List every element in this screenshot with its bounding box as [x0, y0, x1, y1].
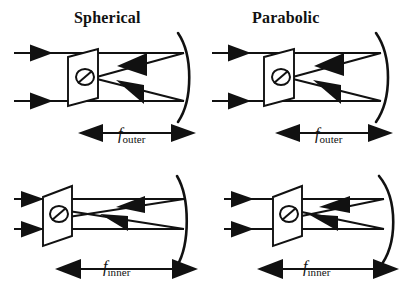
focal-label-outer-tl: fouter: [118, 125, 146, 145]
incoming-arrowhead-upper-bl: [21, 191, 44, 208]
mirror-spherical-tl: [178, 33, 189, 122]
incoming-arrowhead-lower-bl: [21, 221, 44, 238]
focal-arrow-left-bl: [55, 259, 81, 279]
focal-arrow-right-br: [373, 259, 399, 279]
focal-arrow-left-tl: [78, 124, 103, 142]
incoming-arrowhead-lower-tr: [228, 93, 251, 110]
incoming-arrowhead-upper-br: [231, 191, 254, 208]
reflected-arrowhead-upper-tl: [117, 53, 147, 76]
incoming-arrowhead-upper-tl: [30, 45, 53, 62]
panel-top-left: [14, 33, 196, 142]
incoming-arrowhead-lower-tl: [30, 93, 53, 110]
focal-label-inner-br: finner: [303, 258, 331, 278]
ray-diagram-svg: [0, 0, 418, 298]
focal-arrow-right-bl: [172, 259, 198, 279]
mirror-parabolic-br: [379, 176, 393, 268]
focal-label-outer-tr: fouter: [315, 125, 343, 145]
focal-label-subscript: outer: [122, 133, 145, 145]
incoming-arrowhead-upper-tr: [228, 45, 251, 62]
focal-label-inner-bl: finner: [103, 258, 131, 278]
panel-top-right: [212, 33, 393, 142]
focal-arrow-right-tl: [171, 124, 196, 142]
focal-label-subscript: outer: [319, 133, 342, 145]
focal-label-subscript: inner: [107, 266, 130, 278]
mirror-parabolic-tr: [376, 33, 388, 122]
figure-root: Spherical Parabolic: [0, 0, 418, 298]
focal-arrow-left-tr: [275, 124, 300, 142]
reflected-ray-upper-bl: [62, 199, 184, 218]
mirror-spherical-bl: [177, 176, 187, 266]
focal-arrow-left-br: [257, 259, 283, 279]
focal-arrow-right-tr: [368, 124, 393, 142]
focal-label-subscript: inner: [307, 266, 330, 278]
incoming-arrowhead-lower-br: [231, 221, 254, 238]
reflected-arrowhead-upper-tr: [314, 53, 344, 76]
